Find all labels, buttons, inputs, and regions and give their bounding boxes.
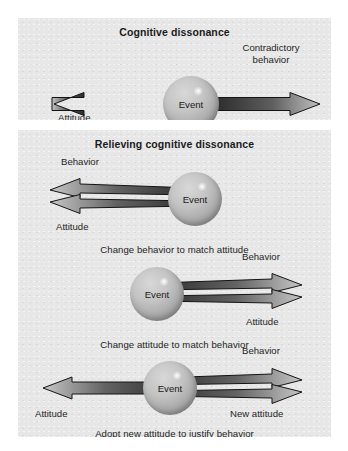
label-new-attitude-lower-right: New attitude [230,408,283,420]
cognitive-dissonance-figure: Cognitive dissonance [0,0,348,451]
label-attitude-left: Attitude [58,112,91,120]
diagram-dissonance: Event Attitude Contradictory behavior [18,18,331,120]
arrow-contradictory-behavior-right [214,92,322,116]
panel-cognitive-dissonance: Cognitive dissonance [18,18,331,120]
event-sphere: Event [130,267,184,321]
event-sphere-label: Event [130,289,184,300]
label-behavior-upper-right: Behavior [242,251,280,263]
event-sphere: Event [168,172,222,226]
label-contradictory-behavior: Contradictory behavior [225,42,317,65]
event-sphere-label: Event [143,383,197,394]
panel-relieving-cognitive-dissonance: Relieving cognitive dissonance [18,130,331,437]
label-attitude-lower-left: Attitude [35,408,68,420]
label-contradictory-behavior-line1: Contradictory [242,42,299,53]
event-sphere: Event [143,361,197,415]
label-attitude-lower-left: Attitude [56,221,89,233]
caption-adopt-new-attitude: Adopt new attitude to justify behavior [18,428,331,437]
panel-title-relieving-cognitive-dissonance: Relieving cognitive dissonance [18,138,331,150]
label-behavior-upper-left: Behavior [61,156,99,168]
diagram-change-behavior: Event Behavior Attitude Change behavior … [18,152,331,252]
label-behavior-upper-right: Behavior [242,345,280,357]
diagram-adopt-new-attitude: Event Behavior Attitude New attitude Ado… [18,342,331,437]
event-sphere: Event [163,76,219,120]
label-contradictory-behavior-line2: behavior [253,54,290,65]
label-attitude-lower-right: Attitude [246,316,279,328]
event-sphere-label: Event [168,194,222,205]
diagram-change-attitude: Event Behavior Attitude Change attitude … [18,247,331,347]
event-sphere-label: Event [163,99,219,110]
